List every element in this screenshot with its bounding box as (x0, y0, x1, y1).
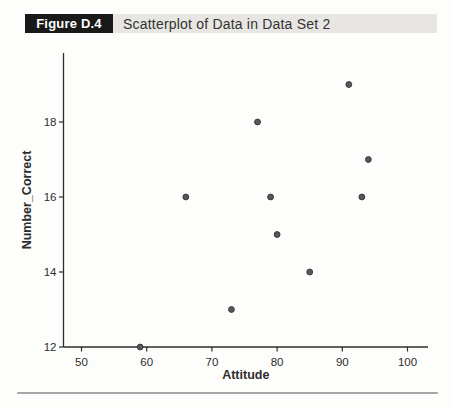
data-point (359, 194, 365, 200)
x-tick-label: 80 (271, 356, 284, 368)
figure-caption-bar: Figure D.4 Scatterplot of Data in Data S… (25, 14, 437, 33)
data-point (307, 269, 313, 275)
data-point (346, 82, 352, 88)
bottom-rule (17, 392, 438, 394)
data-point (137, 344, 143, 350)
x-tick-label: 100 (398, 356, 417, 368)
y-tick-label: 14 (44, 266, 57, 278)
data-point (255, 119, 261, 125)
figure-label: Figure D.4 (25, 14, 113, 33)
x-tick-label: 60 (140, 356, 153, 368)
y-tick-label: 12 (44, 341, 57, 353)
y-tick-label: 18 (44, 116, 57, 128)
data-point (183, 194, 189, 200)
x-tick-label: 50 (75, 356, 88, 368)
data-point (274, 232, 280, 238)
figure-panel: Figure D.4 Scatterplot of Data in Data S… (0, 0, 450, 408)
data-point (365, 157, 371, 163)
x-axis-title: Attitude (222, 368, 269, 382)
x-tick-label: 90 (336, 356, 349, 368)
y-axis-title: Number_Correct (20, 150, 34, 249)
figure-title: Scatterplot of Data in Data Set 2 (113, 14, 437, 33)
data-point (229, 307, 235, 313)
y-tick-label: 16 (44, 191, 57, 203)
scatterplot-svg: 506070809010012141618AttitudeNumber_Corr… (0, 0, 450, 408)
x-tick-label: 70 (206, 356, 219, 368)
data-point (268, 194, 274, 200)
